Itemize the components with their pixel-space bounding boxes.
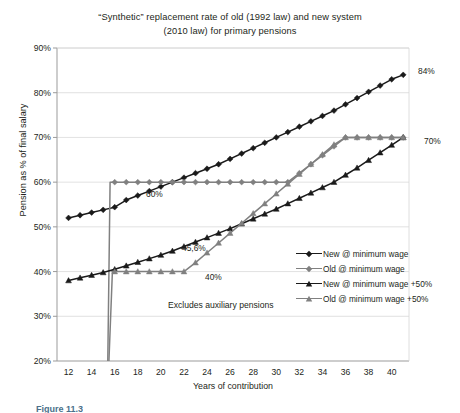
data-point-marker — [100, 207, 106, 213]
series-0 — [66, 72, 406, 221]
data-point-marker — [377, 83, 383, 89]
chart-legend: New @ minimum wageOld @ minimum wageNew … — [296, 246, 456, 306]
data-point-marker — [331, 108, 337, 114]
x-tick-label: 26 — [220, 367, 240, 377]
x-tick-label: 12 — [59, 367, 79, 377]
data-point-marker — [204, 166, 210, 172]
data-point-marker — [135, 193, 141, 199]
x-tick-label: 38 — [359, 367, 379, 377]
figure-container: “Synthetic” replacement rate of old (199… — [0, 0, 460, 413]
data-point-marker — [193, 179, 199, 185]
data-point-marker — [77, 212, 83, 218]
y-tick-label: 60% — [21, 177, 51, 187]
data-label: 40% — [205, 272, 222, 282]
legend-item-1[interactable]: Old @ minimum wage — [296, 261, 456, 276]
data-point-marker — [239, 179, 245, 185]
x-tick-label: 24 — [197, 367, 217, 377]
legend-item-2[interactable]: New @ minimum wage +50% — [296, 276, 456, 291]
x-tick-label: 22 — [174, 367, 194, 377]
data-point-marker — [343, 101, 349, 107]
data-point-marker — [250, 179, 256, 185]
data-point-marker — [366, 89, 372, 95]
data-point-marker — [146, 179, 152, 185]
triangle-marker-icon — [296, 293, 322, 304]
triangle-marker-icon — [296, 278, 322, 289]
x-tick-label: 30 — [266, 367, 286, 377]
series-line — [69, 75, 404, 218]
x-tick-label: 14 — [82, 367, 102, 377]
data-point-marker — [216, 161, 222, 167]
y-tick-label: 20% — [21, 356, 51, 366]
data-point-marker — [273, 179, 279, 185]
diamond-marker-icon — [296, 263, 322, 274]
data-point-marker — [285, 129, 291, 135]
data-point-marker — [123, 179, 129, 185]
data-label: 45,6% — [182, 243, 206, 253]
x-tick-label: 34 — [312, 367, 332, 377]
x-tick-label: 36 — [336, 367, 356, 377]
y-tick-marks — [53, 48, 57, 361]
data-point-marker — [112, 179, 118, 185]
legend-item-0[interactable]: New @ minimum wage — [296, 246, 456, 261]
y-tick-label: 40% — [21, 267, 51, 277]
data-point-marker — [181, 179, 187, 185]
data-point-marker — [66, 215, 72, 221]
data-point-marker — [262, 140, 268, 146]
data-point-marker — [193, 170, 199, 176]
data-point-marker — [250, 145, 256, 151]
x-tick-label: 16 — [105, 367, 125, 377]
data-point-marker — [320, 113, 326, 119]
data-label: 84% — [418, 66, 435, 76]
y-tick-label: 90% — [21, 43, 51, 53]
legend-label: New @ minimum wage — [322, 249, 408, 259]
data-point-marker — [354, 95, 360, 101]
x-tick-label: 32 — [289, 367, 309, 377]
legend-label: Old @ minimum wage +50% — [322, 294, 429, 304]
x-tick-label: 40 — [382, 367, 402, 377]
legend-label: Old @ minimum wage — [322, 264, 405, 274]
data-point-marker — [158, 179, 164, 185]
data-point-marker — [204, 179, 210, 185]
data-point-marker — [227, 179, 233, 185]
plot-area — [0, 0, 460, 413]
data-point-marker — [389, 76, 395, 82]
data-point-marker — [296, 124, 302, 130]
legend-item-3[interactable]: Old @ minimum wage +50% — [296, 291, 456, 306]
data-point-marker — [135, 179, 141, 185]
data-point-marker — [227, 156, 233, 162]
x-tick-label: 20 — [151, 367, 171, 377]
x-tick-label: 18 — [128, 367, 148, 377]
y-tick-label: 80% — [21, 88, 51, 98]
y-tick-label: 50% — [21, 222, 51, 232]
data-point-marker — [308, 118, 314, 124]
data-label: 70% — [424, 136, 441, 146]
x-tick-label: 28 — [243, 367, 263, 377]
data-point-marker — [262, 179, 268, 185]
chart-note: Excludes auxiliary pensions — [168, 300, 274, 310]
data-point-marker — [216, 179, 222, 185]
figure-caption: Figure 11.3 — [36, 404, 83, 413]
legend-label: New @ minimum wage +50% — [322, 279, 432, 289]
data-label: 60% — [146, 189, 163, 199]
data-point-marker — [89, 210, 95, 216]
data-point-marker — [400, 72, 406, 78]
data-point-marker — [273, 135, 279, 141]
y-tick-label: 30% — [21, 311, 51, 321]
data-point-marker — [170, 179, 176, 185]
diamond-marker-icon — [296, 248, 322, 259]
data-point-marker — [239, 151, 245, 157]
series-layer — [66, 72, 406, 361]
y-tick-label: 70% — [21, 132, 51, 142]
